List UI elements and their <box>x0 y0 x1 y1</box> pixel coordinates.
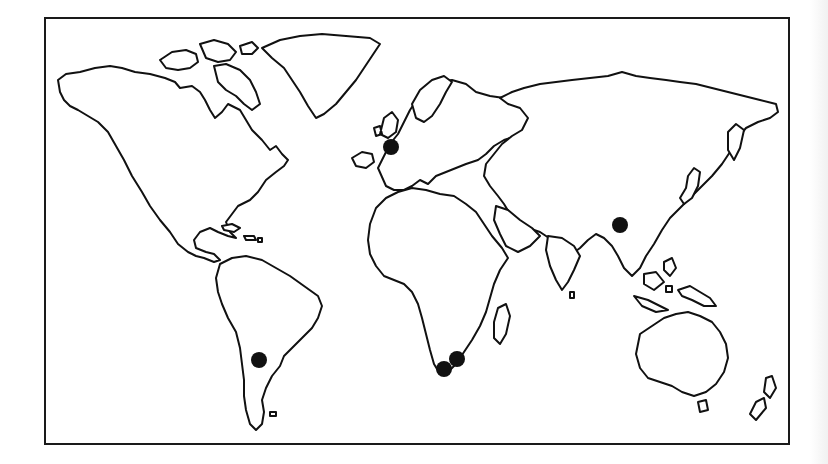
south-america <box>216 256 322 430</box>
location-marker <box>449 351 465 367</box>
australia <box>636 312 728 396</box>
southeast-asia-islands <box>634 258 716 312</box>
world-map <box>0 0 828 464</box>
british-isles <box>374 112 398 138</box>
tasmania <box>698 400 708 412</box>
kamchatka <box>728 124 744 160</box>
iceland <box>352 152 374 168</box>
africa <box>368 188 508 374</box>
new-zealand <box>750 376 776 420</box>
location-marker <box>251 352 267 368</box>
location-marker <box>612 217 628 233</box>
location-marker <box>436 361 452 377</box>
madagascar <box>494 304 510 344</box>
falkland-islands <box>270 412 276 416</box>
sri-lanka <box>570 292 574 298</box>
greenland <box>262 34 380 118</box>
location-marker <box>383 139 399 155</box>
